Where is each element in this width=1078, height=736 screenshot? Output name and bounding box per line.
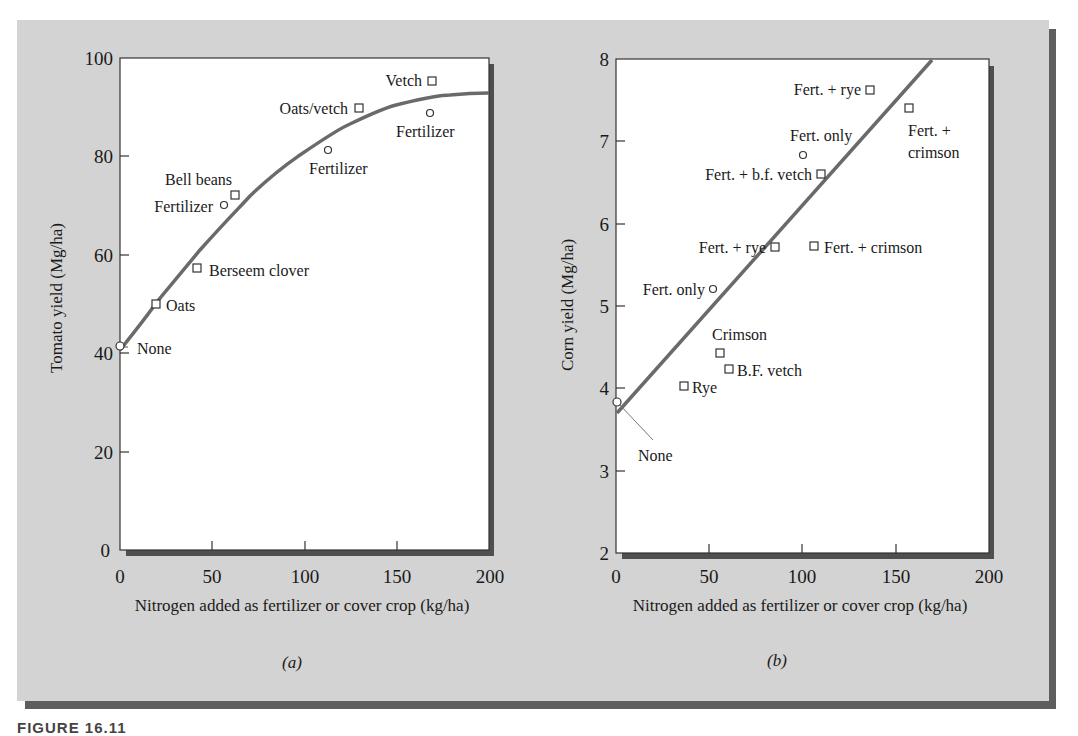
plot-shadow [989, 66, 994, 559]
marker-square [810, 242, 818, 250]
svg-text:200: 200 [476, 566, 505, 587]
svg-text:100: 100 [788, 566, 817, 587]
svg-text:0: 0 [115, 566, 125, 587]
marker-square [680, 382, 688, 390]
point-label: Fert. + crimson [824, 239, 922, 256]
plot-shadow [489, 64, 494, 556]
svg-text:8: 8 [600, 49, 610, 70]
chart-b: 8 7 6 5 4 3 2 0 50 100 150 200 Nitrogen … [558, 49, 1003, 670]
x-tick-labels-a: 0 50 100 150 200 [115, 566, 504, 587]
marker-square [905, 104, 913, 112]
point-label: Oats [166, 297, 195, 314]
point-label: Fert. only [790, 127, 852, 145]
marker-square [193, 264, 201, 272]
point-label: None [137, 340, 172, 357]
svg-text:6: 6 [600, 214, 610, 235]
point-label: None [638, 447, 673, 464]
marker-circle [710, 286, 717, 293]
point-label: Rye [692, 379, 717, 397]
point-label: Fert. + b.f. vetch [705, 166, 812, 183]
plot-shadow [126, 550, 494, 556]
svg-text:150: 150 [383, 566, 412, 587]
svg-text:50: 50 [203, 566, 222, 587]
y-tick-labels-a: 100 80 60 40 20 0 [85, 48, 114, 561]
point-label: Crimson [712, 326, 767, 343]
marker-circle [800, 152, 807, 159]
marker-square [817, 170, 825, 178]
panel-label-b: (b) [767, 651, 787, 670]
svg-text:150: 150 [882, 566, 911, 587]
panel-label-a: (a) [282, 653, 302, 672]
svg-text:100: 100 [85, 48, 114, 69]
point-label: Fertilizer [309, 160, 368, 177]
point-label: Fert. only [643, 281, 705, 299]
marker-square [231, 191, 239, 199]
svg-text:4: 4 [600, 378, 610, 399]
marker-square [725, 365, 733, 373]
point-label: Fert. + [908, 122, 951, 139]
point-label: Fert. + rye [794, 81, 861, 99]
point-label: Oats/vetch [280, 100, 348, 117]
y-axis-title-a: Tomato yield (Mg/ha) [47, 223, 66, 373]
x-axis-title-a: Nitrogen added as fertilizer or cover cr… [135, 596, 470, 615]
point-label: Fert. + rye [699, 239, 766, 257]
svg-text:3: 3 [600, 461, 610, 482]
plot-shadow [622, 553, 994, 559]
svg-text:7: 7 [600, 131, 610, 152]
x-tick-labels-b: 0 50 100 150 200 [611, 566, 1003, 587]
point-label: Fertilizer [396, 123, 455, 140]
marker-square [771, 243, 779, 251]
svg-text:200: 200 [975, 566, 1004, 587]
y-axis-title-b: Corn yield (Mg/ha) [558, 239, 577, 371]
marker-square [716, 349, 724, 357]
x-axis-title-b: Nitrogen added as fertilizer or cover cr… [633, 596, 968, 615]
svg-text:40: 40 [94, 343, 113, 364]
svg-text:0: 0 [611, 566, 621, 587]
chart-a: 100 80 60 40 20 0 0 50 100 150 200 Nitro… [47, 48, 504, 672]
svg-text:2: 2 [600, 543, 610, 564]
svg-text:50: 50 [700, 566, 719, 587]
marker-circle [325, 147, 332, 154]
svg-text:100: 100 [291, 566, 320, 587]
marker-circle [221, 202, 228, 209]
point-label: crimson [908, 144, 960, 161]
point-label: B.F. vetch [737, 362, 802, 379]
point-label: Bell beans [165, 171, 232, 188]
svg-text:5: 5 [600, 296, 610, 317]
marker-circle [613, 398, 621, 406]
svg-text:80: 80 [94, 146, 113, 167]
point-label: Berseem clover [209, 262, 310, 279]
marker-square [866, 86, 874, 94]
point-label: Vetch [386, 72, 422, 89]
marker-circle [427, 110, 434, 117]
marker-square [428, 77, 436, 85]
y-tick-labels-b: 8 7 6 5 4 3 2 [600, 49, 610, 564]
svg-text:20: 20 [94, 442, 113, 463]
point-label: Fertilizer [154, 198, 213, 215]
marker-circle [116, 342, 124, 350]
marker-square [355, 104, 363, 112]
marker-square [152, 300, 160, 308]
svg-text:0: 0 [101, 540, 111, 561]
svg-text:60: 60 [94, 245, 113, 266]
